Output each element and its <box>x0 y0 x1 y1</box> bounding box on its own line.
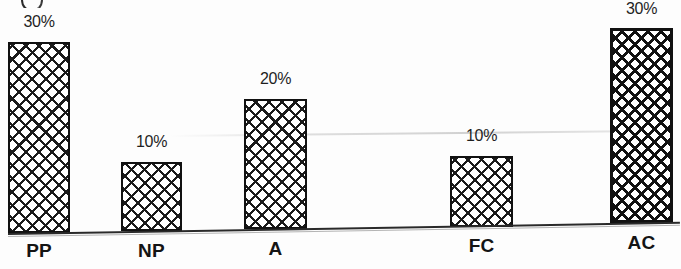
value-label-ac: 30% <box>610 0 673 18</box>
bar-chart: 30% PP 10% NP 20% A 10% FC 30% AC <box>0 0 681 269</box>
value-label-a: 20% <box>244 70 307 88</box>
value-label-fc: 10% <box>450 127 513 145</box>
category-label-pp: PP <box>8 240 70 262</box>
x-axis-baseline <box>8 222 680 235</box>
bar-pp <box>8 42 70 233</box>
bar-ac <box>610 28 673 223</box>
bar-a <box>244 99 307 229</box>
bar-np <box>121 162 182 231</box>
category-label-np: NP <box>121 240 182 262</box>
category-label-a: A <box>244 238 307 260</box>
value-label-np: 10% <box>121 133 182 151</box>
bar-fc <box>450 156 513 227</box>
clipped-glyph-artifact <box>21 0 43 12</box>
category-label-fc: FC <box>450 235 513 257</box>
category-label-ac: AC <box>610 232 673 254</box>
value-label-pp: 30% <box>8 13 70 31</box>
